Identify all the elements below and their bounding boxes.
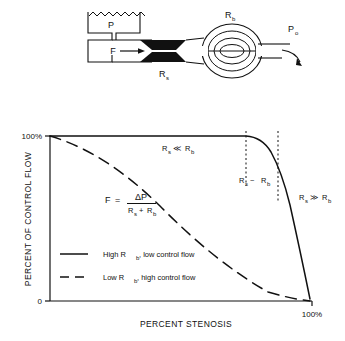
svg-text:s: s	[245, 181, 248, 187]
svg-text:s: s	[168, 149, 171, 155]
bed-inlet-gap	[200, 46, 208, 56]
x-axis-title: PERCENT STENOSIS	[140, 319, 232, 329]
fluid-surface-zigzag	[89, 12, 145, 16]
stenosis-resistance-label: R s	[159, 69, 169, 81]
reservoir-pressure-label: P	[108, 20, 114, 30]
svg-text:s: s	[166, 75, 169, 81]
legend-entry-dashed: Low R b , high control flow	[103, 273, 196, 284]
formula-denom-b-sub: b	[153, 211, 157, 217]
hydraulic-diagram: P F R s	[88, 10, 302, 81]
y-tick-label-0: 0	[38, 297, 43, 306]
chart: 100% 0 100% PERCENT STENOSIS PERCENT OF …	[22, 131, 332, 329]
figure-container: P F R s	[0, 0, 345, 341]
svg-text:≪: ≪	[173, 144, 181, 153]
svg-text:, high control flow: , high control flow	[137, 273, 196, 282]
formula-equals: =	[115, 195, 120, 205]
figure-svg: P F R s	[0, 0, 345, 341]
vascular-bed	[202, 24, 262, 78]
svg-text:s: s	[305, 198, 308, 204]
svg-text:b: b	[232, 16, 236, 22]
stenosis-wedge-top	[140, 40, 186, 50]
bed-resistance-label: R b	[225, 10, 236, 22]
tube-wall-bottom-poststenosis	[186, 62, 204, 64]
svg-text:P: P	[288, 24, 294, 34]
x-tick-label-100: 100%	[302, 310, 322, 319]
chart-legend: High R b , low control flow Low R b , hi…	[60, 250, 196, 284]
stenosis-wedge-bottom	[140, 52, 186, 62]
annotation-low-stenosis: R s ≪ R b	[162, 144, 195, 155]
svg-text:R: R	[159, 69, 166, 79]
outflow-pressure-label: P o	[288, 24, 299, 36]
legend-entry-solid: High R b , low control flow	[103, 250, 195, 261]
svg-text:Low R: Low R	[103, 273, 125, 282]
flow-arrow-head	[138, 48, 145, 54]
formula-plus: +	[139, 206, 144, 215]
formula-denom-a-sub: s	[134, 211, 137, 217]
svg-text:~: ~	[250, 176, 255, 185]
formula-numerator: ΔP	[135, 192, 147, 202]
flow-label: F	[110, 46, 116, 56]
y-tick-label-100: 100%	[22, 132, 42, 141]
bed-outlet-gap	[256, 46, 266, 56]
y-axis-title: PERCENT OF CONTROL FLOW	[23, 152, 33, 286]
tube-wall-top-poststenosis	[186, 38, 204, 40]
svg-text:High R: High R	[103, 250, 127, 259]
svg-text:R: R	[225, 10, 232, 20]
svg-text:, low control flow: , low control flow	[139, 250, 195, 259]
svg-text:b: b	[267, 181, 271, 187]
svg-text:≫: ≫	[310, 193, 318, 202]
formula-lhs: F	[105, 195, 111, 205]
reservoir-outline-right	[116, 12, 140, 40]
annotation-transition: R s ~ R b	[239, 176, 271, 187]
svg-text:b: b	[191, 149, 195, 155]
annotation-high-stenosis: R s ≫ R b	[299, 193, 332, 204]
svg-text:b: b	[328, 198, 332, 204]
svg-text:o: o	[295, 30, 299, 36]
